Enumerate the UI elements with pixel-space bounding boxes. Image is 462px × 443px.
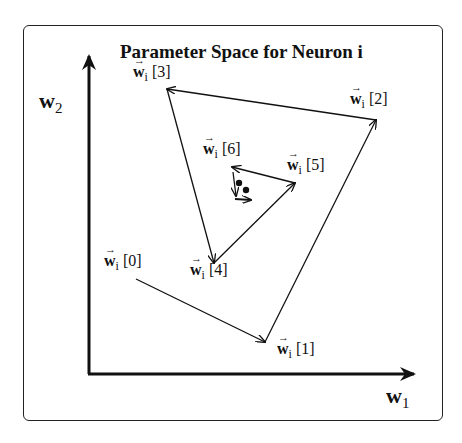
diagram-canvas (0, 0, 462, 443)
y-axis-label: w2 (39, 88, 62, 117)
converged-point (243, 187, 249, 193)
weight-label: →wi [0] (104, 252, 142, 270)
converged-point (236, 180, 242, 186)
weight-label: →wi [5] (287, 156, 325, 174)
weight-label: →wi [4] (190, 261, 228, 279)
step-arrow (136, 279, 265, 342)
step-arrow (167, 89, 376, 120)
weight-label: →wi [3] (133, 63, 171, 81)
weight-trajectory (136, 89, 376, 342)
weight-label: →wi [1] (277, 340, 315, 358)
step-arrow (214, 183, 295, 263)
diagram-title: Parameter Space for Neuron i (120, 41, 363, 63)
convergence-detail (233, 172, 251, 200)
weight-label: →wi [2] (350, 90, 388, 108)
step-arrow (167, 89, 214, 263)
x-axis-label: w1 (386, 383, 409, 412)
weight-label: →wi [6] (203, 140, 241, 158)
step-arrow (232, 167, 295, 183)
step-arrow (265, 120, 376, 342)
